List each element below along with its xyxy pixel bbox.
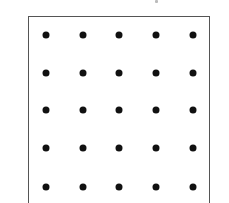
grid-dot (43, 32, 50, 39)
grid-dot (43, 184, 50, 191)
grid-dot (80, 107, 87, 114)
grid-dot (116, 32, 123, 39)
grid-dot (190, 70, 197, 77)
grid-dot (153, 145, 160, 152)
grid-dot (153, 32, 160, 39)
grid-dot (80, 145, 87, 152)
grid-dot (43, 70, 50, 77)
grid-dot (153, 107, 160, 114)
grid-dot (80, 32, 87, 39)
grid-dot (153, 70, 160, 77)
grid-dot (116, 107, 123, 114)
grid-dot (116, 184, 123, 191)
top-mark (155, 0, 158, 3)
grid-dot (190, 145, 197, 152)
grid-dot (190, 107, 197, 114)
grid-dot (190, 32, 197, 39)
grid-dot (43, 107, 50, 114)
grid-dot (190, 184, 197, 191)
grid-dot (80, 70, 87, 77)
grid-dot (153, 184, 160, 191)
grid-dot (116, 70, 123, 77)
grid-dot (43, 145, 50, 152)
grid-dot (116, 145, 123, 152)
grid-dot (80, 184, 87, 191)
